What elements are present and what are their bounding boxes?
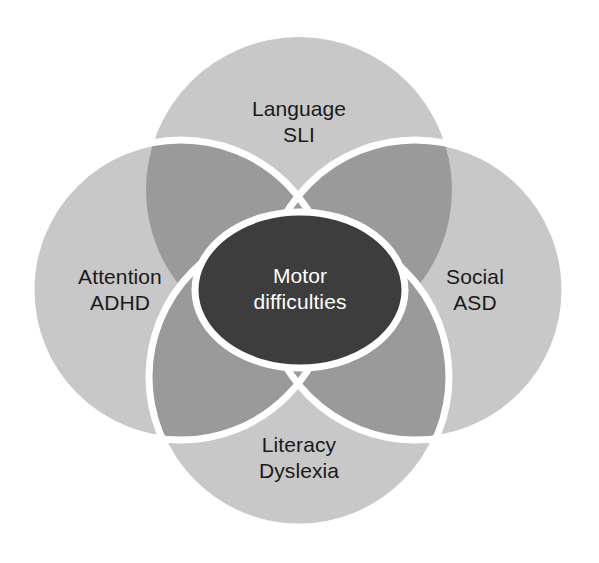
- label-attention-line1: Attention: [78, 265, 162, 288]
- label-attention: Attention ADHD: [78, 264, 162, 315]
- label-attention-line2: ADHD: [78, 290, 162, 316]
- venn-diagram: Language SLI Attention ADHD Social ASD L…: [0, 0, 599, 563]
- label-language-line1: Language: [252, 97, 346, 120]
- label-motor-line2: difficulties: [253, 289, 346, 315]
- label-literacy: Literacy Dyslexia: [259, 432, 339, 483]
- label-language-line2: SLI: [252, 122, 346, 148]
- label-social: Social ASD: [446, 264, 504, 315]
- label-language: Language SLI: [252, 96, 346, 147]
- label-literacy-line1: Literacy: [262, 433, 336, 456]
- label-motor-line1: Motor: [273, 264, 327, 287]
- label-social-line1: Social: [446, 265, 504, 288]
- label-motor-difficulties: Motor difficulties: [253, 263, 346, 314]
- label-literacy-line2: Dyslexia: [259, 458, 339, 484]
- label-social-line2: ASD: [446, 290, 504, 316]
